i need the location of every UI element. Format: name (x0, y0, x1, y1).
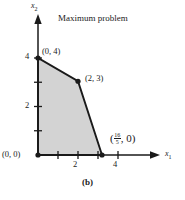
y-tick-label-4: 4 (25, 52, 29, 61)
fraction-numerator: 16 (114, 132, 121, 139)
vertex-marker-0-4 (35, 55, 40, 60)
vertex-label-origin: (0, 0) (2, 150, 20, 159)
y-axis-label: x2 (31, 2, 38, 12)
vertex-label-0-4: (0, 4) (42, 47, 60, 56)
paren-close-suffix: , 0) (121, 132, 136, 144)
x-axis-label: x1 (165, 150, 172, 160)
vertex-label-16-5-0: (165, 0) (110, 132, 135, 146)
vertex-marker-origin (35, 152, 40, 157)
fraction-16-5: 165 (114, 132, 121, 146)
x-axis-arrowhead-icon (150, 151, 160, 158)
x-tick-label-2: 2 (73, 160, 77, 169)
vertex-marker-2-3 (75, 79, 80, 84)
fraction-denominator: 5 (114, 139, 121, 145)
figure-caption: (b) (82, 178, 93, 187)
chart-title: Maximum problem (58, 14, 128, 23)
x-tick-label-4: 4 (113, 160, 117, 169)
vertex-marker-16-5-0 (99, 152, 104, 157)
y-tick-label-2: 2 (25, 101, 29, 110)
y-axis-arrowhead-icon (34, 14, 41, 24)
vertex-label-2-3: (2, 3) (85, 74, 103, 83)
figure-maximum-problem: x2 x1 Maximum problem 2 4 2 4 (0, 4) (2,… (0, 0, 185, 200)
